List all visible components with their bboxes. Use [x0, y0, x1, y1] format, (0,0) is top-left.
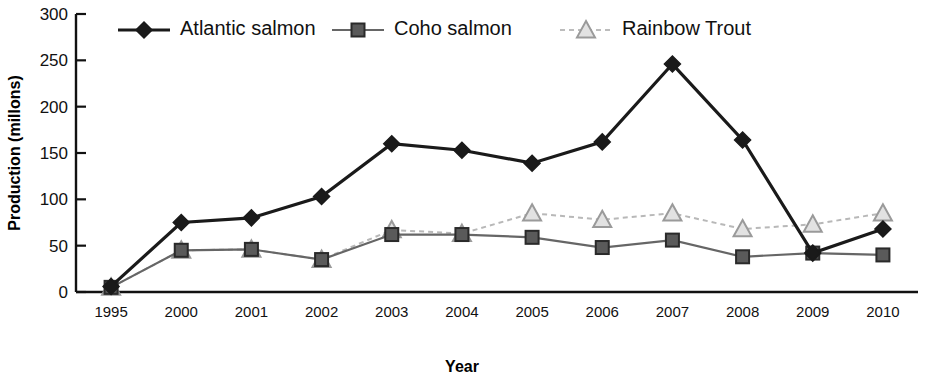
x-tick-label: 2002 — [305, 303, 338, 320]
square-marker — [736, 250, 749, 263]
square-marker — [175, 244, 188, 257]
x-axis-title: Year — [445, 358, 479, 375]
square-marker — [596, 241, 609, 254]
chart-legend: Atlantic salmonCoho salmonRainbow Trout — [118, 17, 751, 39]
square-marker — [876, 248, 889, 261]
y-tick-label: 200 — [40, 98, 68, 117]
y-axis-title: Production (millons) — [6, 75, 23, 231]
legend-item-atlantic-salmon[interactable]: Atlantic salmon — [118, 17, 316, 39]
y-tick-label: 300 — [40, 5, 68, 24]
x-tick-label: 2009 — [796, 303, 829, 320]
y-tick-label: 150 — [40, 144, 68, 163]
diamond-marker — [454, 142, 470, 158]
square-marker — [385, 228, 398, 241]
y-tick-label: 50 — [49, 237, 68, 256]
y-tick-label: 250 — [40, 51, 68, 70]
x-tick-label: 2008 — [726, 303, 759, 320]
x-tick-label: 2007 — [656, 303, 689, 320]
legend-item-rainbow-trout[interactable]: Rainbow Trout — [560, 17, 751, 39]
x-tick-label: 2006 — [586, 303, 619, 320]
legend-item-coho-salmon[interactable]: Coho salmon — [332, 17, 512, 39]
chart-canvas: 050100150200250300 199520002001200220032… — [0, 0, 926, 387]
x-tick-label: 2003 — [375, 303, 408, 320]
axis-tick-marks — [76, 14, 86, 292]
series-line — [111, 64, 883, 286]
x-axis-tick-labels: 1995200020012002200320042005200620072008… — [94, 303, 899, 320]
square-marker — [455, 228, 468, 241]
square-marker — [526, 231, 539, 244]
y-tick-label: 100 — [40, 190, 68, 209]
series-coho-salmon — [105, 228, 890, 294]
series-line — [111, 235, 883, 288]
legend-label: Atlantic salmon — [180, 17, 316, 39]
y-axis-tick-labels: 050100150200250300 — [40, 5, 68, 302]
diamond-marker — [875, 221, 891, 237]
legend-label: Coho salmon — [394, 17, 512, 39]
x-tick-label: 2010 — [866, 303, 899, 320]
triangle-marker — [663, 204, 681, 220]
x-tick-label: 2000 — [165, 303, 198, 320]
square-marker — [315, 253, 328, 266]
line-chart-figure: 050100150200250300 199520002001200220032… — [0, 0, 926, 387]
series-atlantic-salmon — [103, 56, 891, 294]
square-marker — [245, 243, 258, 256]
data-series-layer — [102, 56, 892, 295]
x-tick-label: 1995 — [94, 303, 127, 320]
x-tick-label: 2004 — [445, 303, 478, 320]
diamond-icon — [136, 22, 152, 38]
diamond-marker — [524, 155, 540, 171]
x-tick-label: 2005 — [515, 303, 548, 320]
y-tick-label: 0 — [59, 283, 68, 302]
diamond-marker — [243, 210, 259, 226]
square-marker — [666, 234, 679, 247]
triangle-marker — [523, 204, 541, 220]
square-icon — [352, 24, 365, 37]
legend-label: Rainbow Trout — [622, 17, 751, 39]
x-tick-label: 2001 — [235, 303, 268, 320]
triangle-marker — [874, 204, 892, 220]
